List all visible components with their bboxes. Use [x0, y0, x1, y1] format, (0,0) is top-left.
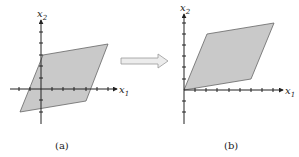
parallelogram-b — [184, 23, 274, 90]
panel-a: x1 x2 (a) — [10, 8, 129, 151]
caption-a: (a) — [55, 140, 69, 151]
parallelogram-a — [20, 44, 108, 112]
x1-label-b: x1 — [285, 85, 295, 99]
panel-b: x1 x2 (b) — [180, 2, 295, 151]
x2-label-b: x2 — [180, 2, 191, 16]
x2-label-a: x2 — [37, 8, 48, 22]
caption-b: (b) — [224, 140, 238, 151]
x1-label-a: x1 — [119, 84, 129, 98]
transform-arrow-icon — [121, 54, 168, 68]
figure: x1 x2 (a) x1 — [0, 0, 299, 157]
